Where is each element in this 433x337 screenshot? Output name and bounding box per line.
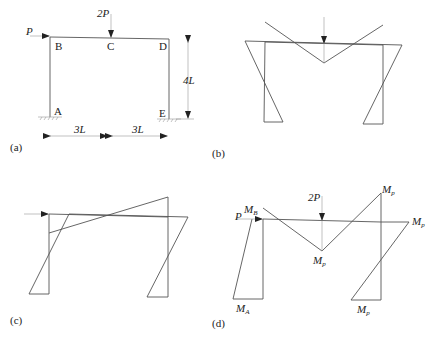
dim-label-3l-right: 3L <box>131 123 144 135</box>
moment-label-mb: MB <box>243 203 258 217</box>
node-label-a: A <box>54 105 62 117</box>
node-label-d: D <box>159 40 167 52</box>
panel-label-a: (a) <box>10 141 23 154</box>
panel-d-moment-diagram <box>233 193 409 300</box>
node-label-b: B <box>55 40 62 52</box>
moment-label-mp-top: Mp <box>381 183 395 197</box>
moment-label-mp-bottom: Mp <box>356 303 370 317</box>
panel-c-mechanism <box>24 197 188 297</box>
load-label-p: P <box>25 25 33 37</box>
panel-label-d: (d) <box>212 317 225 330</box>
panel-label-b: (b) <box>212 147 225 160</box>
dim-label-3l-left: 3L <box>73 123 86 135</box>
load-label-2p: 2P <box>97 7 110 19</box>
panel-a-frame <box>30 14 194 136</box>
dim-label-4l: 4L <box>183 74 195 86</box>
panel-label-c: (c) <box>10 314 23 327</box>
moment-label-ma: MA <box>235 302 250 316</box>
load-label-2p: 2P <box>308 191 321 203</box>
moment-label-mp-mid: Mp <box>312 254 326 268</box>
load-label-p: P <box>234 210 242 222</box>
moment-label-mp-right: Mp <box>411 215 425 229</box>
panel-b-mechanism <box>245 17 402 124</box>
node-label-c: C <box>107 40 114 52</box>
node-label-e: E <box>159 107 166 119</box>
frame-collapse-figure: P 2P B C D A E 3L 3L 4L (a) (b) (c) P <box>0 0 433 337</box>
